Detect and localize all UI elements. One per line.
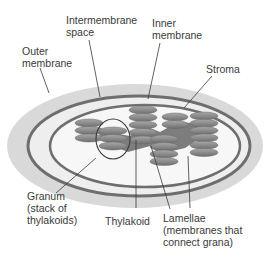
thylakoid-disc — [190, 112, 218, 120]
thylakoid-disc — [162, 113, 188, 121]
label-outer-membrane: Outer membrane — [22, 45, 72, 69]
thylakoid-disc — [129, 129, 157, 137]
thylakoid-disc — [129, 106, 157, 114]
label-granum: Granum (stack of thylakoids) — [27, 190, 77, 226]
thylakoid-disc — [150, 158, 178, 166]
thylakoid-disc — [190, 141, 218, 149]
circled-granum — [99, 127, 127, 150]
thylakoid-disc — [75, 134, 103, 142]
label-stroma: Stroma — [206, 63, 240, 75]
label-lamellae: Lamellae (membranes that connect grana) — [163, 212, 242, 248]
thylakoid-disc — [99, 127, 127, 135]
label-inner-membrane: Inner membrane — [152, 17, 202, 41]
thylakoid-disc — [190, 127, 218, 135]
label-thylakoid: Thylakoid — [105, 215, 150, 227]
label-intermembrane-space: Intermembrane space — [66, 14, 137, 38]
thylakoid-disc — [150, 143, 178, 151]
thylakoid-disc — [190, 119, 218, 127]
thylakoid-disc — [150, 135, 178, 143]
thylakoid-disc — [190, 134, 218, 142]
leader-outer-membrane — [40, 68, 49, 93]
thylakoid-disc — [129, 114, 157, 122]
thylakoid-disc — [99, 135, 127, 143]
thylakoid-disc — [75, 119, 103, 127]
thylakoid-disc — [190, 149, 218, 157]
thylakoid-disc — [162, 121, 188, 129]
thylakoid-disc — [129, 121, 157, 129]
thylakoid-disc — [99, 142, 127, 150]
